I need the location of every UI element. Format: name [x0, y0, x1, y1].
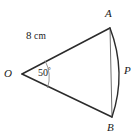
- point-label-b: B: [107, 122, 114, 133]
- arc-point-label-p: P: [124, 65, 131, 76]
- radius-measurement-label: 8 cm: [26, 30, 46, 42]
- angle-value: 50: [38, 67, 48, 78]
- central-angle-label: 50°: [38, 67, 51, 78]
- radius-line-ob: [22, 74, 112, 117]
- center-point-label-o: O: [4, 68, 12, 79]
- sector-figure-svg: [0, 0, 138, 138]
- chord-line-ab: [110, 28, 112, 117]
- radius-unit: cm: [34, 31, 46, 41]
- point-label-a: A: [105, 8, 112, 19]
- radius-value: 8: [26, 29, 32, 41]
- degree-symbol: °: [48, 66, 51, 74]
- sector-diagram: O A B P 8 cm 50°: [0, 0, 138, 138]
